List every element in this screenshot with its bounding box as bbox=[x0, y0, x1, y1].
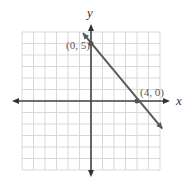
graph-line bbox=[83, 33, 162, 128]
y-axis-label: y bbox=[87, 5, 93, 21]
y-axis-down-arrow-icon bbox=[88, 170, 94, 177]
x-axis-left-arrow-icon bbox=[12, 98, 19, 104]
y-axis-up-arrow-icon bbox=[88, 24, 94, 31]
x-axis-right-arrow-icon bbox=[163, 98, 170, 104]
coordinate-plane bbox=[0, 0, 195, 182]
x-axis-label: x bbox=[176, 93, 182, 109]
point-label-x-intercept: (4, 0) bbox=[140, 86, 164, 98]
point-label-y-intercept: (0, 5) bbox=[66, 39, 90, 51]
data-point bbox=[135, 99, 140, 104]
